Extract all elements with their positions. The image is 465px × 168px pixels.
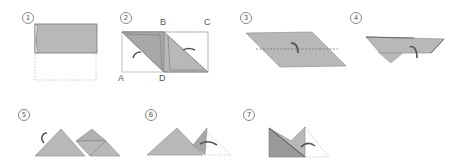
step-1-figure xyxy=(0,0,110,90)
step-4-figure xyxy=(340,0,465,90)
step-4: 4 xyxy=(340,0,465,90)
step-3-figure xyxy=(230,0,350,90)
step-1: 1 xyxy=(0,0,110,90)
step-2-figure xyxy=(110,0,230,90)
step-5-figure xyxy=(0,95,140,168)
step-6-figure xyxy=(135,95,235,168)
step-2: 2 A B C D xyxy=(110,0,230,90)
step-3: 3 xyxy=(230,0,350,90)
step-5: 5 xyxy=(0,95,140,168)
step-6: 6 xyxy=(135,95,235,168)
step-7-figure xyxy=(235,95,335,168)
step-7: 7 xyxy=(235,95,335,168)
